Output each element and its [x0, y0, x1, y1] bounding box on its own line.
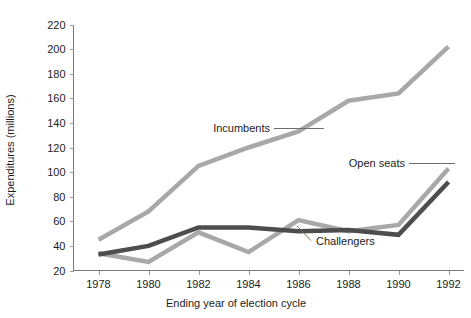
x-tick-label: 1978 [86, 278, 110, 290]
y-tick-label: 80 [53, 191, 65, 203]
y-tick-label: 160 [47, 92, 65, 104]
y-tick-label: 180 [47, 68, 65, 80]
y-tick-label: 200 [47, 43, 65, 55]
x-tick-label: 1980 [136, 278, 160, 290]
series-label-open-seats: Open seats [349, 157, 406, 169]
x-tick-label: 1992 [436, 278, 460, 290]
y-axis-title: Expenditures (millions) [4, 94, 16, 205]
y-tick-label: 140 [47, 117, 65, 129]
x-axis-title: Ending year of election cycle [166, 297, 306, 309]
series-label-challengers: Challengers [316, 235, 375, 247]
y-tick-label: 40 [53, 240, 65, 252]
y-tick-label: 100 [47, 166, 65, 178]
x-tick-label: 1982 [186, 278, 210, 290]
x-tick-label: 1984 [236, 278, 260, 290]
x-tick-label: 1988 [336, 278, 360, 290]
y-tick-label: 60 [53, 215, 65, 227]
y-tick-label: 220 [47, 19, 65, 31]
x-tick-label: 1986 [286, 278, 310, 290]
series-label-incumbents: Incumbents [213, 122, 270, 134]
y-tick-label: 20 [53, 265, 65, 277]
line-chart: 20406080100120140160180200220 1978198019… [0, 0, 471, 318]
y-tick-label: 120 [47, 142, 65, 154]
chart-container: 20406080100120140160180200220 1978198019… [0, 0, 471, 318]
x-tick-label: 1990 [386, 278, 410, 290]
